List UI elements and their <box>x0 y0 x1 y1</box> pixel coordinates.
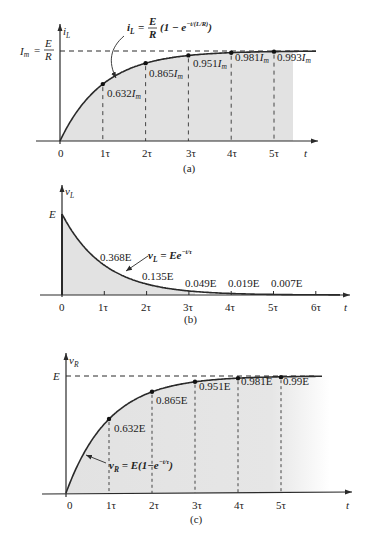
data-point <box>193 380 197 384</box>
panel-c-x-ticks: 0 1τ 2τ 3τ 4τ 5τ t <box>67 499 350 511</box>
svg-text:Im: Im <box>19 45 30 59</box>
svg-text:1τ: 1τ <box>106 499 117 511</box>
data-point <box>236 376 240 380</box>
data-point <box>101 82 105 86</box>
data-point <box>186 53 190 57</box>
svg-text:1τ: 1τ <box>98 301 109 313</box>
panel-c-caption: (c) <box>190 513 203 526</box>
panel-a-x-ticks: 0 1τ 2τ 3τ 4τ 5τ t <box>58 147 308 159</box>
svg-text:E: E <box>148 15 156 27</box>
svg-text:3τ: 3τ <box>186 147 197 159</box>
panel-b-chart: vL E vL = Ee−t/τ 0.368E 0.135E 0.049E 0.… <box>40 185 350 326</box>
svg-text:0.007E: 0.007E <box>271 277 303 289</box>
svg-text:t: t <box>346 499 350 511</box>
svg-text:3τ: 3τ <box>192 499 203 511</box>
svg-text:t: t <box>304 147 308 159</box>
svg-text:3τ: 3τ <box>183 301 194 313</box>
panel-a-asymptote-label: Im = E R <box>19 37 54 62</box>
data-point <box>107 417 111 421</box>
svg-text:t: t <box>344 301 348 313</box>
panel-c-chart: vR E vR = E(1−e−t/τ) 0.632E 0.865E 0.951… <box>42 353 352 526</box>
svg-text:0.865E: 0.865E <box>156 394 188 406</box>
data-point <box>229 51 233 55</box>
svg-text:5τ: 5τ <box>268 301 279 313</box>
data-point <box>272 49 276 53</box>
panel-b-y-label: vL <box>65 185 74 200</box>
svg-text:5τ: 5τ <box>276 499 287 511</box>
svg-text:6τ: 6τ <box>311 301 322 313</box>
panel-a-equation: iL = E R (1 − e−t/(L/R)) <box>127 15 212 40</box>
svg-text:4τ: 4τ <box>227 147 238 159</box>
svg-text:0.951E: 0.951E <box>199 380 231 392</box>
svg-text:4τ: 4τ <box>234 499 245 511</box>
panel-a-shaded-area <box>60 51 293 141</box>
data-point <box>143 61 147 65</box>
svg-text:0.99E: 0.99E <box>283 375 309 387</box>
svg-text:0.368E: 0.368E <box>100 251 132 263</box>
svg-text:0.632E: 0.632E <box>114 422 146 434</box>
panel-c-y-label: vR <box>69 354 79 369</box>
svg-text:2τ: 2τ <box>141 301 152 313</box>
svg-text:1τ: 1τ <box>100 147 111 159</box>
svg-text:0.019E: 0.019E <box>228 277 260 289</box>
svg-text:vL = Ee−t/τ: vL = Ee−t/τ <box>148 248 193 264</box>
svg-text:iL: iL <box>127 21 135 36</box>
svg-text:0: 0 <box>67 499 73 511</box>
svg-text:0: 0 <box>59 301 65 313</box>
figure-canvas: iL Im = E R iL = E R (1 − e−t/(L/R)) 0.6… <box>0 0 370 541</box>
svg-text:(1 − e−t/(L/R)): (1 − e−t/(L/R)) <box>160 20 212 34</box>
svg-text:5τ: 5τ <box>269 147 280 159</box>
svg-text:R: R <box>44 50 52 62</box>
svg-text:=: = <box>138 21 144 33</box>
panel-c-shaded-area <box>66 376 330 493</box>
panel-b-start-label: E <box>48 208 56 220</box>
svg-text:0.981E: 0.981E <box>241 375 273 387</box>
svg-text:=: = <box>34 44 40 56</box>
svg-text:0.049E: 0.049E <box>185 277 217 289</box>
panel-c-asymptote-label: E <box>52 370 60 382</box>
svg-text:0.993Im: 0.993Im <box>277 51 311 65</box>
svg-text:E: E <box>44 37 52 49</box>
panel-b-x-ticks: 0 1τ 2τ 3τ 4τ 5τ 6τ t <box>59 301 348 313</box>
panel-b-equation: vL = Ee−t/τ <box>148 248 193 264</box>
svg-text:R: R <box>148 28 156 40</box>
data-point <box>150 390 154 394</box>
svg-text:2τ: 2τ <box>142 147 153 159</box>
panel-a-y-label: iL <box>63 25 70 40</box>
panel-b-caption: (b) <box>184 313 197 326</box>
svg-text:0.135E: 0.135E <box>142 270 174 282</box>
panel-a-chart: iL Im = E R iL = E R (1 − e−t/(L/R)) 0.6… <box>19 15 318 175</box>
svg-text:4τ: 4τ <box>225 301 236 313</box>
svg-text:0: 0 <box>58 147 64 159</box>
panel-a-caption: (a) <box>183 162 196 175</box>
svg-text:2τ: 2τ <box>149 499 160 511</box>
